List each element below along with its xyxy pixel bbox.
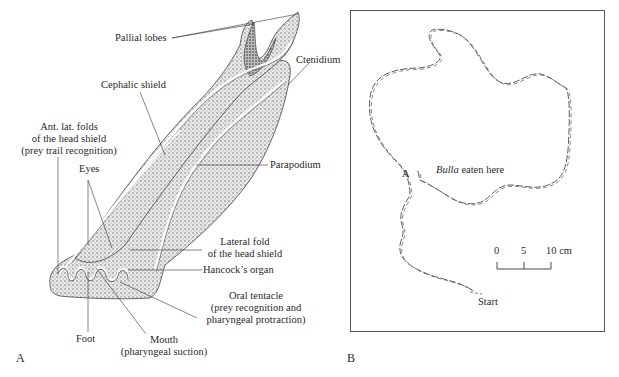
- label-cephalic-shield: Cephalic shield: [101, 79, 166, 91]
- label-oral-tentacle-line3: pharyngeal protraction): [196, 314, 316, 326]
- label-lateral-fold-line1: Lateral fold: [200, 236, 290, 248]
- panel-letter-a: A: [16, 351, 25, 366]
- label-ant-lat-folds-line3: (prey trail recognition): [14, 145, 124, 157]
- label-ant-lat-folds-line2: of the head shield: [14, 133, 124, 145]
- label-oral-tentacle-line1: Oral tentacle: [196, 290, 316, 302]
- label-oral-tentacle-line2: (prey recognition and: [196, 302, 316, 314]
- label-ant-lat-folds: Ant. lat. folds of the head shield (prey…: [14, 121, 124, 157]
- label-point-a: A: [402, 168, 410, 180]
- label-ctenidium: Ctenidium: [296, 54, 340, 66]
- label-parapodium: Parapodium: [270, 159, 321, 171]
- figure: Pallial lobes Ctenidium Cephalic shield …: [0, 0, 619, 377]
- label-lateral-fold: Lateral fold of the head shield: [200, 236, 290, 260]
- label-bulla-eaten-here: Bulla eaten here: [436, 164, 504, 176]
- label-bulla-rest: eaten here: [459, 164, 504, 175]
- label-eyes: Eyes: [79, 163, 99, 175]
- label-mouth-line2: (pharyngeal suction): [114, 346, 214, 358]
- scale-tick-5: 5: [521, 245, 526, 257]
- scale-tick-0: 0: [494, 245, 499, 257]
- label-foot: Foot: [76, 333, 95, 345]
- label-bulla-italic: Bulla: [436, 164, 459, 175]
- label-pallial-lobes: Pallial lobes: [115, 32, 167, 44]
- label-mouth-line1: Mouth: [114, 334, 214, 346]
- label-mouth: Mouth (pharyngeal suction): [114, 334, 214, 358]
- label-lateral-fold-line2: of the head shield: [200, 248, 290, 260]
- label-oral-tentacle: Oral tentacle (prey recognition and phar…: [196, 290, 316, 326]
- label-ant-lat-folds-line1: Ant. lat. folds: [14, 121, 124, 133]
- label-start: Start: [478, 296, 498, 308]
- label-hancocks-organ: Hancock’s organ: [203, 264, 274, 276]
- scale-tick-10cm: 10 cm: [546, 245, 572, 257]
- panel-letter-b: B: [347, 351, 355, 366]
